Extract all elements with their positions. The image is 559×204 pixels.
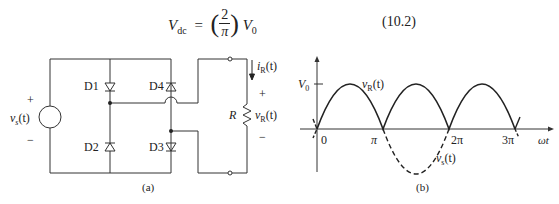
load-voltage-label: vR(t) (255, 109, 277, 124)
source-plus: + (27, 94, 34, 106)
waveform-graph (300, 56, 554, 174)
x-axis-arrow-icon (548, 127, 554, 132)
x-tick-3pi: 3π (502, 134, 514, 146)
x-tick-0: 0 (321, 134, 327, 146)
d2-label: D2 (84, 141, 99, 153)
load-plus: + (259, 88, 266, 100)
vr-legend-label: vR(t) (362, 78, 384, 93)
x-tick-2pi: 2π (451, 134, 463, 146)
current-arrow-icon (250, 60, 255, 80)
caption-b: (b) (416, 182, 429, 193)
vs-legend-label: vs(t) (436, 152, 456, 167)
junction-node (108, 101, 112, 105)
y-axis-arrow-icon (315, 56, 320, 62)
load-minus: − (259, 131, 266, 143)
ac-source-icon (39, 106, 61, 128)
source-label: vs(t) (10, 112, 30, 127)
diode-d2-icon (105, 143, 115, 151)
x-axis-label: ωt (538, 135, 549, 146)
d3-label: D3 (149, 141, 164, 153)
resistor-icon (243, 104, 251, 126)
figure-canvas (0, 0, 559, 204)
junction-node (169, 129, 173, 133)
vr-curve (317, 84, 515, 129)
caption-a: (a) (142, 182, 154, 193)
terminal-top (228, 57, 232, 61)
d4-label: D4 (149, 80, 164, 92)
diode-d3-icon (166, 141, 176, 153)
terminal-bottom (228, 171, 232, 175)
current-label: iR(t) (257, 60, 277, 75)
y-tick-v0: V0 (298, 78, 309, 93)
resistor-label: R (229, 109, 236, 121)
diode-d1-icon (105, 83, 115, 91)
diode-d4-icon (166, 81, 176, 93)
d1-label: D1 (84, 80, 99, 92)
bridge-circuit (39, 57, 251, 175)
source-minus: − (27, 134, 34, 146)
x-tick-pi: π (371, 134, 377, 146)
